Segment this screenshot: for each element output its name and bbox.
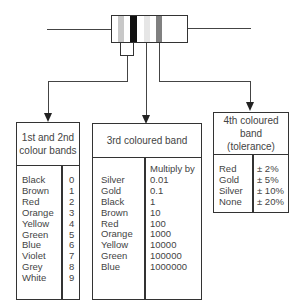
band-1 [118, 16, 124, 42]
connector-right-v2 [250, 81, 251, 103]
connector-left-h [48, 81, 128, 82]
header-line-1: 4th coloured band [214, 114, 288, 140]
tolerance-values: ± 2% ± 5% ± 10% ± 20% [257, 164, 284, 208]
fourth-band-tolerance-table: 4th coloured band (tolerance) Red Gold S… [213, 112, 289, 213]
right-lead [188, 28, 251, 29]
third-band-multiplier-table: 3rd coloured band Silver Gold Black Brow… [92, 123, 202, 300]
connector-right-v1 [159, 43, 160, 82]
connector-left-v1 [127, 56, 128, 82]
connector-right-h [159, 81, 251, 82]
arrow-down-icon [44, 113, 52, 122]
column-divider [252, 154, 254, 212]
color-names: Red Gold Silver None [219, 164, 243, 208]
table-header: 1st and 2nd colour bands [17, 123, 79, 166]
connector-mid-v [146, 43, 147, 121]
header-title: 3rd coloured band [107, 134, 188, 147]
header-line-2: (tolerance) [214, 140, 288, 153]
color-names: Black Brown Red Orange Yellow Green Blue… [22, 175, 54, 284]
table-header: 3rd coloured band [93, 124, 201, 158]
band-2 [130, 16, 137, 42]
connector-left-v2 [48, 81, 49, 115]
table-header: 4th coloured band (tolerance) [214, 113, 288, 155]
arrow-down-icon [246, 102, 254, 111]
multiplier-values: Multiply by 0.01 0.1 1 10 100 1000 10000… [150, 164, 195, 273]
header-line-1: 1st and 2nd [19, 131, 76, 144]
band-4 [156, 16, 162, 42]
digit-values: 0 1 2 3 4 5 6 7 8 9 [69, 175, 74, 284]
column-divider [61, 165, 63, 299]
first-second-band-table: 1st and 2nd colour bands Black Brown Red… [16, 122, 80, 300]
column-divider [144, 157, 146, 299]
band-3 [144, 16, 150, 42]
header-line-2: colour bands [19, 144, 76, 157]
band-pair-bracket [120, 42, 134, 56]
color-names: Silver Gold Black Brown Red Orange Yello… [101, 164, 133, 273]
resistor-body [111, 15, 188, 43]
left-lead [47, 29, 111, 30]
